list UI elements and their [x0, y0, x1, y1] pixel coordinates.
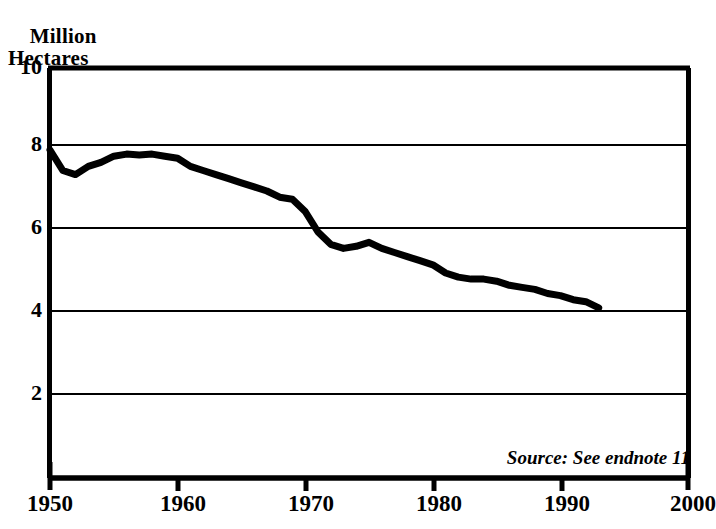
- axis-frame: [48, 68, 690, 478]
- chart-figure: MillionHectares 10 8 6 4 2 1950 1960 197…: [0, 0, 716, 529]
- plot-area: [0, 0, 716, 529]
- gridlines: [48, 145, 690, 394]
